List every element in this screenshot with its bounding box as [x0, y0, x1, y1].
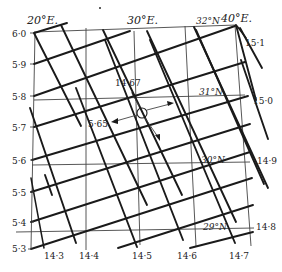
label-40e: 40°E.	[220, 12, 252, 25]
right-label-14-9: 14·9	[257, 156, 277, 166]
bottom-label-14-7: 14·7	[229, 251, 249, 261]
arrow-down-icon	[145, 118, 158, 137]
label-31n: 31°N	[199, 87, 224, 97]
left-label-6-0: 6·0	[12, 29, 27, 39]
label-29n: 29°N	[202, 222, 228, 232]
label-30n: 30°N	[201, 155, 226, 165]
arrow-left-icon	[116, 115, 137, 121]
left-label-5-4: 5·4	[12, 218, 27, 228]
right-label-14-8: 14·8	[256, 222, 276, 232]
arrow-right-icon	[147, 104, 170, 110]
label-20e: 20°E.	[26, 14, 58, 27]
left-label-5-8: 5·8	[12, 92, 27, 102]
left-label-5-3: 5·3	[12, 244, 27, 254]
bottom-label-14-6: 14·6	[177, 251, 197, 261]
point-label-14-67: 14·67	[115, 78, 141, 88]
left-label-5-5: 5·5	[12, 188, 27, 198]
bottom-label-14-5: 14·5	[132, 251, 152, 261]
left-label-5-6: 5·6	[12, 156, 27, 166]
bottom-label-14-3: 14·3	[44, 251, 64, 261]
left-label-5-9: 5·9	[12, 60, 27, 70]
right-label-15-0: 15·0	[253, 96, 273, 106]
right-label-15-1: 15·1	[245, 38, 265, 48]
map-graticule-diagram: 20°E. 30°E. 40°E. 32°N 31°N 30°N 29°N 6·…	[0, 0, 282, 272]
point-label-5-65: 5·65	[88, 119, 108, 129]
label-30e: 30°E.	[127, 14, 158, 27]
left-label-5-7: 5·7	[12, 123, 27, 133]
bottom-label-14-4: 14·4	[79, 251, 99, 261]
label-32n: 32°N	[196, 16, 221, 26]
